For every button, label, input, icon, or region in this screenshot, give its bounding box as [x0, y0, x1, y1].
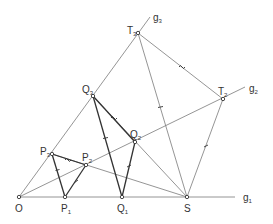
label-o: O — [15, 203, 23, 214]
segment-t2-s — [187, 99, 223, 197]
point-p3 — [50, 152, 53, 155]
point-p1 — [63, 195, 66, 198]
segment-q1-q2 — [122, 142, 135, 197]
label-p2: P2 — [82, 152, 93, 164]
line-g2 — [19, 87, 245, 197]
label-s: S — [184, 203, 191, 214]
label-p1: P1 — [61, 203, 72, 215]
tick-mark — [158, 107, 163, 108]
label-g3: g3 — [153, 12, 163, 24]
point-t3 — [136, 31, 139, 34]
segment-p3-p2 — [52, 154, 86, 165]
point-s — [185, 195, 188, 198]
tick-mark — [103, 138, 108, 139]
label-q2: Q2 — [130, 129, 142, 141]
geometric-diagram: O P1 Q1 S P3 P2 Q3 Q2 T3 T2 g1 g2 g3 — [0, 0, 273, 224]
label-t3: T3 — [127, 25, 137, 37]
point-p2 — [84, 163, 87, 166]
tilde-mark — [179, 66, 185, 69]
label-g1: g1 — [243, 192, 253, 204]
segment-t3-s — [138, 33, 187, 197]
segment-t3-t2 — [138, 33, 223, 99]
point-o — [17, 195, 20, 198]
point-q1 — [120, 195, 123, 198]
label-p3: P3 — [40, 146, 51, 158]
label-q3: Q3 — [82, 84, 94, 96]
label-g2: g2 — [249, 83, 259, 95]
label-t2: T2 — [218, 86, 228, 98]
line-g3 — [19, 17, 150, 197]
point-q2 — [133, 140, 136, 143]
label-q1: Q1 — [117, 203, 129, 215]
